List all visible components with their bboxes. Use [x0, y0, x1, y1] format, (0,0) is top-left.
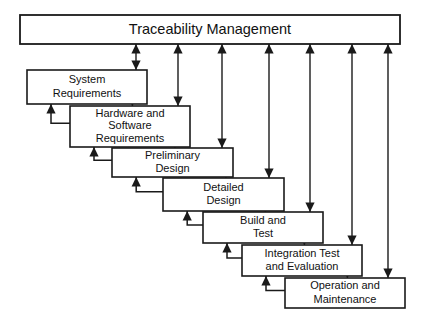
- feedback-arrowhead-detailed-design: [183, 211, 192, 221]
- traceability-arrowhead-up-operation-and-maintenance: [383, 44, 392, 54]
- phase-label-line-preliminary-design: Design: [155, 162, 189, 174]
- phase-label-line-detailed-design: Detailed: [203, 181, 243, 193]
- phase-hardware-and-software-requirements[interactable]: Hardware andSoftwareRequirements: [70, 106, 190, 147]
- feedback-connector-detailed-design-to-preliminary-design: [136, 177, 163, 192]
- phase-label-line-build-and-test: Test: [253, 227, 273, 239]
- traceability-arrowhead-up-system-requirements: [131, 44, 140, 54]
- phase-label-line-integration-test-and-evaluation: Integration Test: [264, 247, 339, 259]
- traceability-arrowhead-up-hardware-and-software-requirements: [173, 44, 182, 54]
- phase-label-line-hardware-and-software-requirements: Software: [108, 119, 151, 131]
- traceability-arrowhead-up-integration-test-and-evaluation: [347, 44, 356, 54]
- traceability-arrowhead-down-build-and-test: [305, 203, 314, 213]
- traceability-arrowhead-down-system-requirements: [131, 61, 140, 71]
- traceability-arrowhead-down-detailed-design: [264, 169, 273, 179]
- phase-label-line-operation-and-maintenance: Maintenance: [314, 293, 377, 305]
- phase-boxes-layer: SystemRequirementsHardware andSoftwareRe…: [27, 70, 405, 308]
- feedback-arrowhead-preliminary-design: [132, 177, 141, 187]
- phase-label-line-detailed-design: Design: [206, 194, 240, 206]
- waterfall-diagram-root: Traceability Management SystemRequiremen…: [0, 0, 426, 324]
- phase-preliminary-design[interactable]: PreliminaryDesign: [112, 148, 233, 177]
- waterfall-diagram-svg: Traceability Management SystemRequiremen…: [0, 0, 426, 324]
- traceability-management-label: Traceability Management: [129, 21, 291, 37]
- phase-label-line-hardware-and-software-requirements: Hardware and: [95, 107, 164, 119]
- phase-integration-test-and-evaluation[interactable]: Integration Testand Evaluation: [242, 245, 362, 276]
- feedback-arrowhead-integration-test-and-evaluation: [261, 276, 270, 286]
- phase-label-line-system-requirements: Requirements: [53, 87, 122, 99]
- feedback-arrowhead-build-and-test: [222, 243, 231, 253]
- traceability-arrowhead-down-operation-and-maintenance: [383, 269, 392, 279]
- feedback-arrowhead-system-requirements: [46, 104, 55, 114]
- phase-label-line-preliminary-design: Preliminary: [145, 149, 201, 161]
- phase-system-requirements[interactable]: SystemRequirements: [27, 70, 147, 104]
- traceability-arrowhead-up-build-and-test: [305, 44, 314, 54]
- feedback-arrowhead-hardware-and-software-requirements: [89, 147, 98, 157]
- phase-label-line-system-requirements: System: [69, 73, 106, 85]
- phase-detailed-design[interactable]: DetailedDesign: [163, 178, 284, 211]
- phase-label-line-integration-test-and-evaluation: and Evaluation: [266, 260, 339, 272]
- phase-operation-and-maintenance[interactable]: Operation andMaintenance: [285, 278, 405, 308]
- phase-label-line-build-and-test: Build and: [240, 214, 286, 226]
- feedback-connector-hardware-and-software-requirements-to-system-requirements: [51, 104, 70, 123]
- phase-build-and-test[interactable]: Build andTest: [203, 212, 323, 243]
- phase-label-line-operation-and-maintenance: Operation and: [310, 279, 380, 291]
- traceability-management-bar[interactable]: Traceability Management: [20, 15, 400, 44]
- traceability-arrowhead-up-preliminary-design: [217, 44, 226, 54]
- traceability-arrowhead-up-detailed-design: [264, 44, 273, 54]
- traceability-arrowhead-down-hardware-and-software-requirements: [173, 97, 182, 107]
- traceability-arrowhead-down-integration-test-and-evaluation: [347, 236, 356, 246]
- phase-label-line-hardware-and-software-requirements: Requirements: [96, 132, 165, 144]
- traceability-arrowhead-down-preliminary-design: [217, 139, 226, 149]
